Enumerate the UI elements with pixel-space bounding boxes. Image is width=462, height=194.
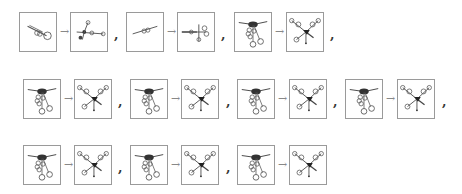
arrow-icon: → bbox=[278, 93, 287, 104]
molecule-branched-chain-2 bbox=[177, 12, 215, 52]
molecule-unfolded-star bbox=[74, 145, 112, 185]
molecule-folded-star bbox=[130, 79, 168, 119]
arrow-icon: → bbox=[60, 26, 69, 37]
molecule-unfolded-star bbox=[181, 79, 219, 119]
separator-comma: , bbox=[442, 95, 447, 108]
molecule-linear-chain-2 bbox=[126, 12, 164, 52]
molecule-unfolded-star bbox=[289, 145, 327, 185]
separator-comma: , bbox=[114, 28, 119, 41]
molecule-unfolded-star bbox=[397, 79, 435, 119]
arrow-icon: → bbox=[275, 26, 284, 37]
arrow-icon: → bbox=[167, 26, 176, 37]
arrow-icon: → bbox=[278, 159, 287, 170]
molecule-folded-star bbox=[23, 79, 61, 119]
molecule-unfolded-star bbox=[74, 79, 112, 119]
separator-comma: , bbox=[226, 95, 231, 108]
molecule-folded-star bbox=[234, 12, 272, 52]
separator-comma: , bbox=[226, 161, 231, 174]
molecule-unfolded-star bbox=[181, 145, 219, 185]
separator-comma: , bbox=[221, 28, 226, 41]
molecule-unfolded-star bbox=[289, 79, 327, 119]
separator-comma: , bbox=[333, 95, 338, 108]
separator-comma: , bbox=[330, 28, 335, 41]
molecule-linear-chain-1 bbox=[19, 12, 57, 52]
arrow-icon: → bbox=[171, 159, 180, 170]
molecule-folded-star bbox=[345, 79, 383, 119]
molecule-unfolded-star bbox=[286, 12, 324, 52]
molecule-folded-star bbox=[130, 145, 168, 185]
molecule-branched-chain-1 bbox=[70, 12, 108, 52]
separator-comma: , bbox=[118, 95, 123, 108]
molecule-folded-star bbox=[237, 145, 275, 185]
arrow-icon: → bbox=[64, 93, 73, 104]
separator-comma: , bbox=[118, 161, 123, 174]
arrow-icon: → bbox=[386, 93, 395, 104]
arrow-icon: → bbox=[171, 93, 180, 104]
molecule-folded-star bbox=[237, 79, 275, 119]
molecule-folded-star bbox=[23, 145, 61, 185]
arrow-icon: → bbox=[64, 159, 73, 170]
